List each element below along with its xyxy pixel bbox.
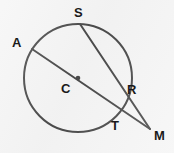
geometry-diagram: A S C R T M	[0, 0, 174, 153]
point-label-c: C	[61, 82, 70, 95]
center-point-dot	[76, 76, 81, 81]
diagram-canvas	[0, 0, 174, 153]
point-label-m: M	[154, 129, 165, 142]
point-label-s: S	[74, 6, 83, 19]
point-label-a: A	[12, 36, 21, 49]
point-label-r: R	[127, 83, 136, 96]
point-label-t: T	[111, 119, 119, 132]
